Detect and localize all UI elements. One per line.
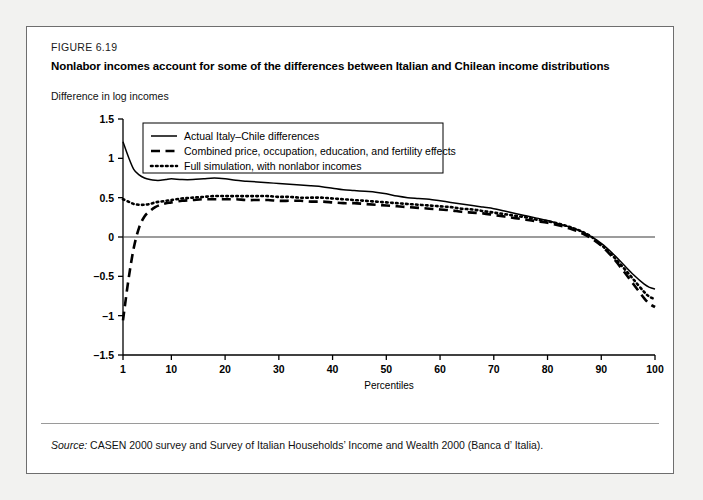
page-root: FIGURE 6.19 Nonlabor incomes account for… [0,0,703,500]
y-axis-tick-label: 0 [108,231,114,243]
y-axis-tick-label: 1 [108,152,114,164]
x-axis-tick-label: 100 [646,363,664,375]
x-axis-tick-label: 80 [542,363,554,375]
x-axis-tick-label: 10 [166,363,178,375]
x-axis-tick-label: 30 [273,363,285,375]
chart-plot-area: 1.510.50–0.5–1–1.51102030405060708090100… [35,105,667,405]
y-axis-tick-label: 0.5 [99,192,114,204]
y-axis-title: Difference in log incomes [51,90,169,102]
legend-label-0: Actual Italy–Chile differences [184,130,319,142]
x-axis-title: Percentiles [364,380,413,391]
series-line-2 [123,196,655,299]
x-axis-tick-label: 60 [434,363,446,375]
source-note: Source: CASEN 2000 survey and Survey of … [51,439,659,451]
y-axis-tick-label: –1 [102,310,114,322]
x-axis-tick-label: 50 [380,363,392,375]
x-axis-tick-label: 70 [488,363,500,375]
x-axis-tick-label: 40 [327,363,339,375]
y-axis-tick-label: 1.5 [99,113,114,125]
series-line-1 [123,199,655,320]
x-axis-tick-label: 20 [219,363,231,375]
legend-label-2: Full simulation, with nonlabor incomes [184,160,361,172]
figure-number: FIGURE 6.19 [51,41,117,53]
source-divider [41,423,659,424]
y-axis-tick-label: –1.5 [94,349,115,361]
line-chart: 1.510.50–0.5–1–1.51102030405060708090100… [35,105,667,405]
x-axis-tick-label: 1 [120,363,126,375]
source-label: Source: [51,439,87,451]
x-axis-tick-label: 90 [595,363,607,375]
figure-title: Nonlabor incomes account for some of the… [51,60,663,72]
legend-label-1: Combined price, occupation, education, a… [184,145,456,157]
figure-box: FIGURE 6.19 Nonlabor incomes account for… [26,26,674,474]
y-axis-tick-label: –0.5 [94,270,115,282]
source-text: CASEN 2000 survey and Survey of Italian … [90,439,543,451]
